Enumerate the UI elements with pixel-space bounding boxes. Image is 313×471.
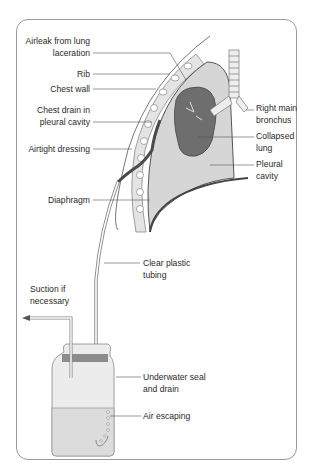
label-pleural-cavity-line2: cavity — [256, 170, 283, 182]
label-tubing-line1: Clear plastic — [143, 257, 190, 269]
trachea-icon — [229, 50, 239, 98]
label-diaphragm: Diaphragm — [22, 194, 90, 206]
label-chest-drain-line2: pleural cavity — [22, 116, 90, 128]
collapsed-lung-shape — [174, 87, 216, 156]
label-bronchus-line1: Right main — [256, 102, 297, 114]
label-collapsed-lung-line2: lung — [256, 142, 294, 154]
label-chest-drain-line1: Chest drain in — [22, 104, 90, 116]
label-chest-wall: Chest wall — [22, 83, 90, 95]
jar-lid — [62, 354, 108, 362]
label-collapsed-lung-line1: Collapsed — [256, 130, 294, 142]
label-collapsed-lung: Collapsed lung — [256, 130, 294, 154]
label-underwater-seal-line1: Underwater seal — [143, 371, 206, 383]
water-level — [52, 408, 114, 456]
label-chest-drain: Chest drain in pleural cavity — [22, 104, 90, 128]
label-underwater-seal-line2: and drain — [143, 383, 206, 395]
label-pleural-cavity-line1: Pleural — [256, 158, 283, 170]
suction-arrow-icon — [22, 315, 30, 321]
label-suction-line1: Suction if — [30, 283, 69, 295]
label-suction-line2: necessary — [30, 295, 69, 307]
label-right-main-bronchus: Right main bronchus — [256, 102, 297, 126]
label-airtight-dressing: Airtight dressing — [12, 143, 90, 155]
label-airleak-line2: laceration — [22, 47, 90, 59]
label-tubing-line2: tubing — [143, 269, 190, 281]
label-airleak-line1: Airleak from lung — [22, 35, 90, 47]
label-suction: Suction if necessary — [30, 283, 69, 307]
label-rib: Rib — [22, 68, 90, 80]
label-bronchus-line2: bronchus — [256, 114, 297, 126]
label-pleural-cavity: Pleural cavity — [256, 158, 283, 182]
label-underwater-seal: Underwater seal and drain — [143, 371, 206, 395]
label-airleak: Airleak from lung laceration — [22, 35, 90, 59]
label-clear-plastic-tubing: Clear plastic tubing — [143, 257, 190, 281]
label-air-escaping: Air escaping — [143, 410, 190, 422]
